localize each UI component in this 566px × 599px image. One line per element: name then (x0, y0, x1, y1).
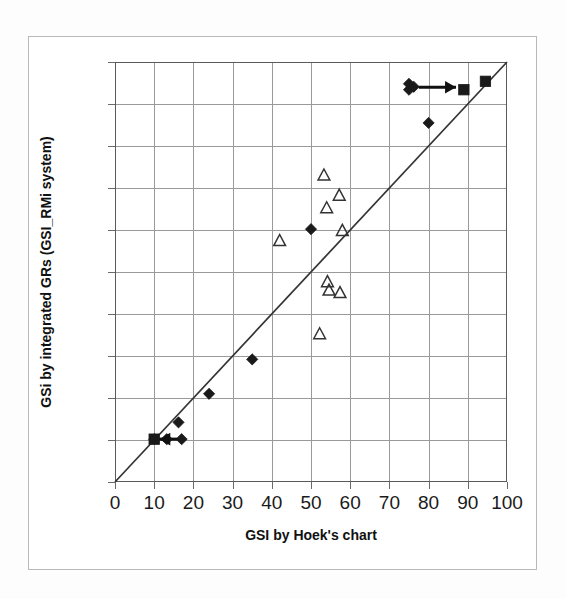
left-arrow-low-head (159, 433, 170, 446)
reference-line-one-to-one (115, 62, 507, 482)
marker-triangle (314, 328, 326, 339)
marker-diamond (305, 224, 316, 235)
x-tick-mark (350, 482, 351, 489)
x-tick-mark (507, 482, 508, 489)
x-tick-mark (468, 482, 469, 489)
y-axis-title: GSi by integrated GRs (GSI_RMi system) (34, 62, 58, 482)
y-tick-mark (108, 272, 115, 273)
y-tick-mark (108, 188, 115, 189)
marker-triangle (322, 276, 334, 287)
marker-square (149, 434, 159, 444)
x-tick-label: 60 (340, 492, 361, 514)
right-arrow-high-head (445, 81, 456, 94)
marker-triangle (333, 189, 345, 200)
x-axis-title: GSI by Hoek's chart (115, 527, 507, 543)
x-tick-label: 0 (110, 492, 121, 514)
y-tick-mark (108, 62, 115, 63)
x-tick-mark (272, 482, 273, 489)
left-arrow-low (159, 433, 177, 446)
x-tick-label: 50 (300, 492, 321, 514)
x-tick-mark (233, 482, 234, 489)
x-tick-mark (311, 482, 312, 489)
y-tick-mark (108, 230, 115, 231)
x-tick-mark (115, 482, 116, 489)
x-tick-label: 10 (144, 492, 165, 514)
marker-triangle (274, 235, 286, 246)
x-tick-label: 100 (491, 492, 523, 514)
y-tick-mark (108, 356, 115, 357)
marker-square (459, 85, 469, 95)
marker-triangle (318, 169, 330, 180)
x-tick-label: 90 (457, 492, 478, 514)
y-tick-mark (108, 104, 115, 105)
y-tick-mark (108, 440, 115, 441)
x-tick-label: 20 (183, 492, 204, 514)
y-axis-title-text: GSi by integrated GRs (GSI_RMi system) (38, 136, 54, 408)
x-tick-label: 80 (418, 492, 439, 514)
marker-diamond (203, 388, 214, 399)
y-tick-mark (108, 146, 115, 147)
y-tick-mark (108, 482, 115, 483)
x-tick-label: 40 (261, 492, 282, 514)
marker-square (480, 76, 490, 86)
x-tick-mark (429, 482, 430, 489)
y-tick-mark (108, 314, 115, 315)
x-tick-mark (193, 482, 194, 489)
right-arrow-high (419, 81, 456, 94)
x-tick-mark (154, 482, 155, 489)
x-tick-label: 70 (379, 492, 400, 514)
marker-diamond (423, 117, 434, 128)
x-tick-label: 30 (222, 492, 243, 514)
marker-triangle (321, 202, 333, 213)
marker-triangle (334, 287, 346, 298)
marker-diamond (247, 354, 258, 365)
x-tick-mark (389, 482, 390, 489)
y-tick-mark (108, 398, 115, 399)
figure-container: GSi by integrated GRs (GSI_RMi system) G… (0, 0, 566, 599)
data-series-layer (115, 62, 507, 482)
plot-area: 0102030405060708090100 01020304050607080… (115, 62, 507, 482)
